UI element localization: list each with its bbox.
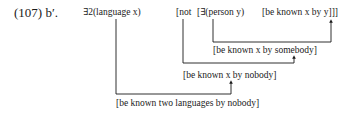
derivation-connectors xyxy=(0,0,360,114)
connector-two-languages xyxy=(116,19,231,94)
connector-nobody xyxy=(183,19,294,63)
connector-somebody xyxy=(213,19,331,42)
